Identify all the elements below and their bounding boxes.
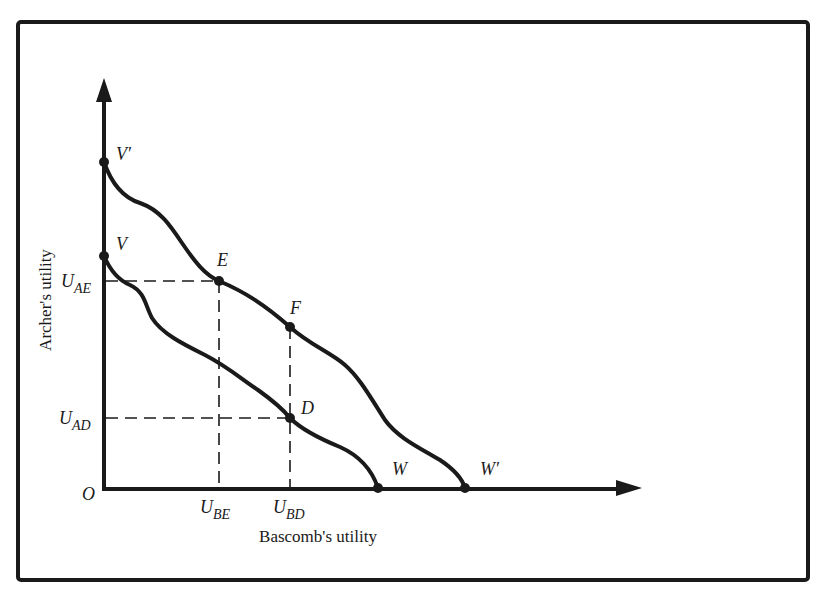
- point-w-prime: [460, 483, 470, 493]
- tick-u-be-main: U: [200, 497, 214, 517]
- curves: [104, 162, 465, 488]
- x-axis-title: Bascomb's utility: [259, 527, 377, 546]
- label-v: V: [116, 234, 129, 254]
- tick-u-ad: UAD: [59, 408, 91, 433]
- point-v: [99, 251, 109, 261]
- tick-u-bd-main: U: [273, 497, 287, 517]
- point-f: [285, 322, 295, 332]
- label-v-prime: V′: [116, 144, 132, 164]
- y-axis-title: Archer's utility: [36, 249, 55, 351]
- label-w-prime: W′: [480, 459, 500, 479]
- point-w: [373, 483, 383, 493]
- tick-u-bd-sub: BD: [286, 507, 305, 522]
- tick-u-ad-sub: AD: [71, 418, 91, 433]
- tick-u-be: UBE: [200, 497, 231, 522]
- point-e: [214, 276, 224, 286]
- point-v-prime: [99, 157, 109, 167]
- point-d: [285, 413, 295, 423]
- tick-u-ae-sub: AE: [73, 281, 92, 296]
- y-tick-labels: UAE UAD: [59, 271, 92, 433]
- tick-u-bd: UBD: [273, 497, 305, 522]
- tick-u-ad-main: U: [59, 408, 73, 428]
- label-f: F: [289, 298, 302, 318]
- label-w: W: [392, 459, 409, 479]
- utility-possibility-diagram: V′ V E F D W W′ O UAE UAD UBE UBD Bascom…: [0, 0, 822, 599]
- tick-u-ae: UAE: [61, 271, 92, 296]
- y-axis-arrowhead-icon: [96, 78, 112, 102]
- axes: [96, 78, 642, 496]
- figure-frame: [18, 22, 808, 580]
- x-axis-arrowhead-icon: [616, 480, 642, 496]
- points: [99, 157, 470, 493]
- x-tick-labels: UBE UBD: [200, 497, 305, 522]
- label-e: E: [216, 250, 228, 270]
- tick-u-ae-main: U: [61, 271, 75, 291]
- guide-lines: [106, 281, 290, 487]
- tick-u-be-sub: BE: [213, 507, 231, 522]
- label-origin: O: [82, 484, 95, 504]
- label-d: D: [300, 398, 314, 418]
